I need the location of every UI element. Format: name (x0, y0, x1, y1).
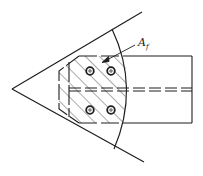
bolt-icon (107, 106, 115, 114)
bolt-icon (86, 106, 94, 114)
area-label: Af (137, 36, 150, 51)
bolt-icon (107, 67, 115, 75)
hatched-effective-area (55, 50, 135, 130)
gusset-connection-diagram: Af (0, 0, 203, 176)
bolt-icon (86, 67, 94, 75)
